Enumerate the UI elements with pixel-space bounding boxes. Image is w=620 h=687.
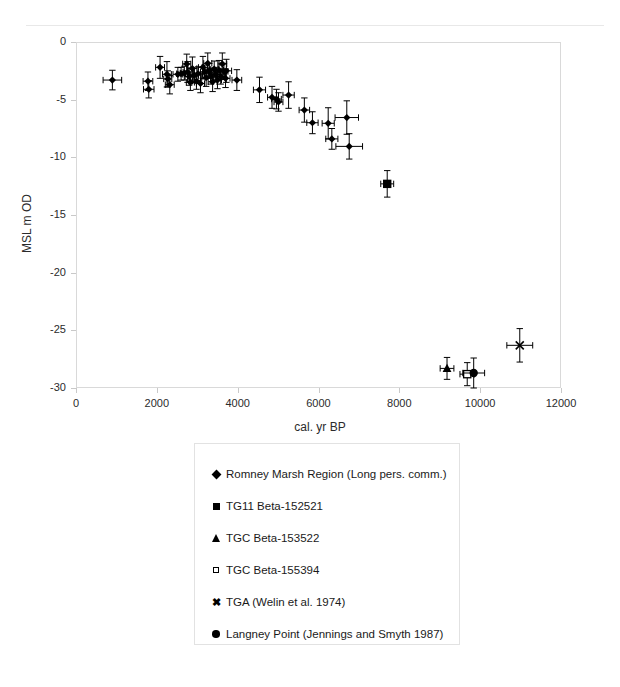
square-filled-marker-icon (209, 503, 223, 510)
diamond-marker-icon (209, 471, 223, 478)
y-tick-label: -20 (28, 266, 66, 278)
triangle-marker-icon (209, 534, 223, 542)
x-tick-label: 8000 (369, 397, 429, 409)
x-tick-label: 2000 (127, 397, 187, 409)
y-tick-label: -5 (28, 93, 66, 105)
legend-item[interactable]: Romney Marsh Region (Long pers. comm.) (209, 466, 447, 482)
chart-legend: Romney Marsh Region (Long pers. comm.)TG… (194, 443, 460, 645)
x-tick-label: 6000 (289, 397, 349, 409)
x-tick-mark (561, 388, 562, 393)
legend-item-label: Langney Point (Jennings and Smyth 1987) (226, 628, 443, 640)
y-tick-label: -10 (28, 150, 66, 162)
x-marker-icon: ✖ (209, 597, 223, 608)
legend-item-label: TGC Beta-155394 (226, 564, 319, 576)
sea-level-scatter-chart: MSL m OD cal. yr BP 0-5-10-15-20-25-3002… (0, 0, 620, 420)
square-open-marker-icon (209, 567, 223, 573)
x-tick-mark (399, 388, 400, 393)
x-tick-mark (480, 388, 481, 393)
legend-item[interactable]: TGC Beta-153522 (209, 530, 319, 546)
y-tick-mark (71, 157, 76, 158)
legend-item[interactable]: TG11 Beta-152521 (209, 498, 323, 514)
y-tick-label: -30 (28, 381, 66, 393)
x-axis-title: cal. yr BP (10, 420, 620, 434)
legend-item[interactable]: Langney Point (Jennings and Smyth 1987) (209, 626, 443, 642)
legend-item-label: TGA (Welin et al. 1974) (226, 596, 345, 608)
x-tick-mark (319, 388, 320, 393)
x-tick-mark (157, 388, 158, 393)
x-tick-label: 4000 (208, 397, 268, 409)
y-axis-title: MSL m OD (20, 194, 34, 253)
legend-item[interactable]: ✖TGA (Welin et al. 1974) (209, 594, 345, 610)
x-tick-label: 0 (46, 397, 106, 409)
x-tick-label: 10000 (450, 397, 510, 409)
y-tick-mark (71, 42, 76, 43)
legend-item-label: TG11 Beta-152521 (226, 500, 323, 512)
x-tick-mark (238, 388, 239, 393)
y-tick-label: -25 (28, 323, 66, 335)
circle-marker-icon (209, 630, 223, 638)
y-tick-label: 0 (28, 35, 66, 47)
plot-area (76, 42, 561, 388)
y-tick-mark (71, 100, 76, 101)
legend-item-label: TGC Beta-153522 (226, 532, 319, 544)
x-tick-label: 12000 (531, 397, 591, 409)
y-tick-mark (71, 273, 76, 274)
y-tick-mark (71, 215, 76, 216)
legend-item[interactable]: TGC Beta-155394 (209, 562, 319, 578)
y-tick-mark (71, 330, 76, 331)
y-tick-label: -15 (28, 208, 66, 220)
x-tick-mark (76, 388, 77, 393)
legend-item-label: Romney Marsh Region (Long pers. comm.) (226, 468, 447, 480)
top-divider (26, 25, 604, 26)
